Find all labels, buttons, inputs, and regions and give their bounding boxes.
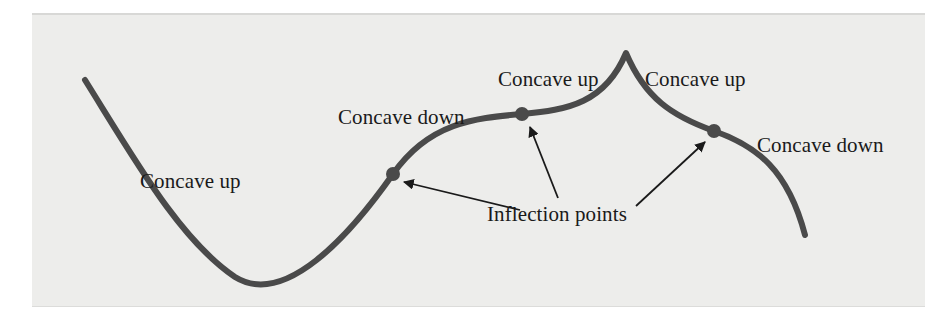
- curve-layer: [0, 0, 952, 321]
- label-inflection-points: Inflection points: [487, 204, 627, 225]
- label-concave-up-left: Concave up: [140, 171, 241, 192]
- inflection-point-1: [386, 167, 400, 181]
- inflection-point-2: [515, 107, 529, 121]
- label-concave-down-right: Concave down: [757, 135, 884, 156]
- inflection-point-3: [707, 124, 721, 138]
- figure-container: Concave up Concave down Concave up Conca…: [0, 0, 952, 321]
- label-concave-up-right: Concave up: [645, 69, 746, 90]
- label-concave-up-middle: Concave up: [498, 69, 599, 90]
- arrow-to-inflection-point-2: [530, 127, 558, 198]
- label-concave-down-left: Concave down: [338, 107, 465, 128]
- arrow-to-inflection-point-3: [636, 142, 705, 206]
